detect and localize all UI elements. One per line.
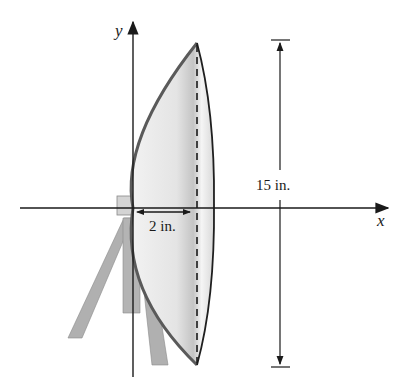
y-axis-label: y <box>113 21 123 40</box>
diameter-dimension: 15 in. <box>256 40 290 367</box>
diameter-label: 15 in. <box>256 177 290 193</box>
x-axis-label: x <box>376 211 385 230</box>
parabolic-dish <box>131 43 214 365</box>
depth-label: 2 in. <box>149 218 176 234</box>
dish-diagram: y x 2 in. 15 in. <box>0 0 408 391</box>
diagram-canvas: y x 2 in. 15 in. <box>0 0 408 391</box>
dish-surface <box>131 43 214 365</box>
